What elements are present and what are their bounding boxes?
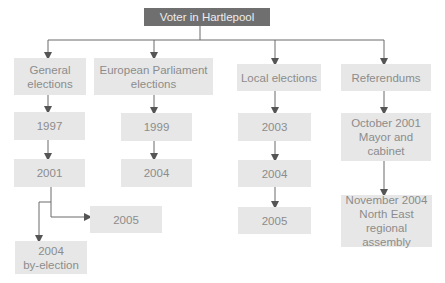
- category-local-elections: Local elections: [237, 64, 321, 91]
- category-referendums: Referendums: [341, 64, 431, 91]
- root-node: Voter in Hartlepool: [144, 8, 270, 26]
- european-2004: 2004: [121, 159, 192, 187]
- european-1999: 1999: [121, 113, 192, 141]
- local-2004: 2004: [238, 160, 311, 187]
- referendum-november-2004: November 2004 North East regional assemb…: [341, 195, 432, 247]
- general-1997: 1997: [14, 112, 85, 140]
- general-2005: 2005: [90, 206, 162, 233]
- local-2003: 2003: [238, 113, 311, 141]
- category-european-parliament: European Parliament elections: [94, 58, 213, 95]
- local-2005: 2005: [238, 207, 311, 234]
- referendum-october-2001: October 2001 Mayor and cabinet: [341, 113, 431, 161]
- general-2004-by-election: 2004 by-election: [15, 241, 87, 274]
- general-2001: 2001: [14, 159, 85, 187]
- category-general-elections: General elections: [14, 58, 86, 95]
